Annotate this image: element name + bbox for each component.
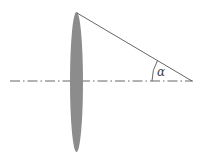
lens-diagram: α [0,0,202,162]
diagram-svg [0,0,202,162]
ray-line [77,13,192,81]
angle-alpha-label: α [157,66,165,78]
lens [70,12,83,152]
